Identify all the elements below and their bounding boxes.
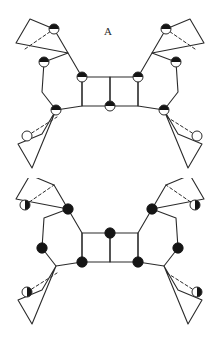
ring-central-square-left	[82, 233, 110, 262]
atom-group-a	[22, 24, 202, 141]
atom-hex-left-lower	[37, 243, 47, 253]
ring-central-square-right	[110, 77, 138, 106]
ring-hexagon-right	[138, 209, 178, 266]
ring-hexagon-left	[42, 209, 82, 266]
atom-hex-right-upper	[171, 57, 181, 67]
atom-terminal-upper-left	[20, 200, 30, 210]
atom-terminal-lower-right	[192, 287, 202, 297]
atom-terminal-upper-right	[161, 24, 171, 34]
atom-hex-right-upper	[147, 204, 157, 214]
panel-label-a: A	[104, 25, 112, 37]
panel-b: B	[0, 178, 224, 356]
atom-terminal-lower-right	[192, 131, 202, 141]
atom-central-bottom-mid	[105, 101, 115, 111]
ring-terminal-square-upper-left	[16, 19, 68, 53]
atom-central-bottom-right	[133, 257, 143, 267]
atom-hex-left-upper	[63, 204, 73, 214]
atom-hex-right-lower	[159, 105, 169, 115]
atom-terminal-upper-left	[49, 24, 59, 34]
atom-hex-left-upper	[39, 57, 49, 67]
atom-terminal-lower-left	[22, 131, 32, 141]
figure-root: A B	[0, 0, 224, 356]
ring-central-square-right	[110, 233, 138, 262]
atom-terminal-upper-right	[190, 200, 200, 210]
atom-group-b	[20, 200, 202, 297]
atom-hex-right-lower	[173, 243, 183, 253]
structure-b-drawing	[0, 178, 224, 356]
panel-a: A	[0, 0, 224, 178]
atom-central-top-left	[77, 72, 87, 82]
ring-terminal-square-upper-right	[152, 19, 204, 53]
atom-hex-left-lower	[51, 105, 61, 115]
atom-terminal-lower-left	[22, 287, 32, 297]
ring-central-square-left	[82, 77, 110, 106]
bond-group-a	[16, 19, 204, 168]
atom-central-top-right	[133, 72, 143, 82]
atom-central-bottom-left	[77, 257, 87, 267]
atom-central-top-mid	[105, 228, 115, 238]
